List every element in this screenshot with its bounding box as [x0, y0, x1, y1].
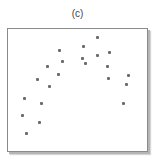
- plot-frame: [7, 28, 148, 152]
- data-point: [127, 74, 130, 77]
- data-point: [96, 36, 99, 39]
- data-point: [96, 54, 99, 57]
- data-point: [58, 49, 61, 52]
- data-point: [40, 102, 43, 105]
- data-point: [108, 51, 111, 54]
- chart-title: (c): [0, 8, 155, 20]
- data-point: [84, 62, 87, 65]
- data-point: [36, 78, 39, 81]
- data-point: [61, 60, 64, 63]
- data-point: [38, 121, 41, 124]
- data-point: [48, 85, 51, 88]
- data-point: [21, 114, 24, 117]
- data-point: [57, 73, 60, 76]
- data-point: [46, 65, 49, 68]
- data-point: [106, 65, 109, 68]
- data-point: [122, 102, 125, 105]
- data-point: [82, 45, 85, 48]
- data-point: [81, 57, 84, 60]
- data-point: [125, 83, 128, 86]
- data-point: [23, 97, 26, 100]
- data-point: [25, 132, 28, 135]
- data-point: [107, 77, 110, 80]
